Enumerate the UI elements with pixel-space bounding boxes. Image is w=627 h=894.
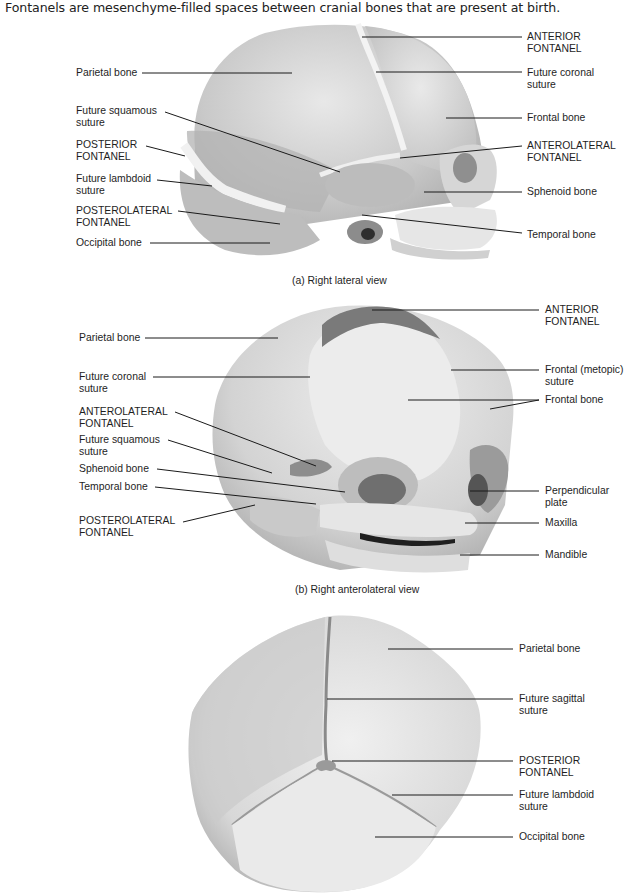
label-a-temporal-bone: Temporal bone: [527, 229, 596, 241]
label-b-temporal-bone: Temporal bone: [79, 481, 148, 493]
label-a-parietal-bone: Parietal bone: [76, 67, 137, 79]
label-b-frontal-bone: Frontal bone: [545, 394, 603, 406]
panel-posterior-view: Parietal bone Future sagittalsuture POST…: [0, 605, 627, 894]
label-a-future-coronal-suture: Future coronalsuture: [527, 67, 594, 90]
label-b-mandible: Mandible: [545, 549, 587, 561]
caption-right-anterolateral-view: (b) Right anterolateral view: [295, 584, 419, 595]
label-c-occipital-bone: Occipital bone: [519, 831, 585, 843]
label-a-sphenoid-bone: Sphenoid bone: [527, 186, 597, 198]
label-a-posterior-fontanel: POSTERIORFONTANEL: [76, 139, 137, 162]
caption-right-lateral-view: (a) Right lateral view: [292, 275, 387, 286]
panel-right-lateral-view: Parietal bone Future squamoussuture POST…: [0, 0, 627, 295]
label-c-posterior-fontanel: POSTERIORFONTANEL: [519, 755, 580, 778]
label-c-future-lambdoid-suture: Future lambdoidsuture: [519, 789, 594, 812]
label-b-maxilla: Maxilla: [545, 517, 577, 529]
label-a-anterior-fontanel: ANTERIORFONTANEL: [527, 31, 582, 54]
label-b-frontal-metopic-suture: Frontal (metopic)suture: [545, 364, 624, 387]
label-b-future-coronal-suture: Future coronalsuture: [79, 371, 146, 394]
label-b-posterolateral-fontanel: POSTEROLATERALFONTANEL: [79, 515, 175, 538]
label-b-sphenoid-bone: Sphenoid bone: [79, 463, 149, 475]
label-a-frontal-bone: Frontal bone: [527, 112, 585, 124]
label-c-parietal-bone: Parietal bone: [519, 643, 580, 655]
label-a-future-lambdoid-suture: Future lambdoidsuture: [76, 173, 151, 196]
label-b-parietal-bone: Parietal bone: [79, 332, 140, 344]
label-a-future-squamous-suture: Future squamoussuture: [76, 105, 157, 128]
label-a-posterolateral-fontanel: POSTEROLATERALFONTANEL: [76, 205, 172, 228]
label-b-perpendicular-plate: Perpendicularplate: [545, 485, 609, 508]
label-a-anterolateral-fontanel: ANTEROLATERALFONTANEL: [527, 140, 616, 163]
label-c-future-sagittal-suture: Future sagittalsuture: [519, 693, 585, 716]
label-b-anterolateral-fontanel: ANTEROLATERALFONTANEL: [79, 406, 168, 429]
label-b-future-squamous-suture: Future squamoussuture: [79, 434, 160, 457]
label-b-anterior-fontanel: ANTERIORFONTANEL: [545, 304, 600, 327]
label-a-occipital-bone: Occipital bone: [76, 237, 142, 249]
panel-right-anterolateral-view: Parietal bone Future coronalsuture ANTER…: [0, 295, 627, 605]
